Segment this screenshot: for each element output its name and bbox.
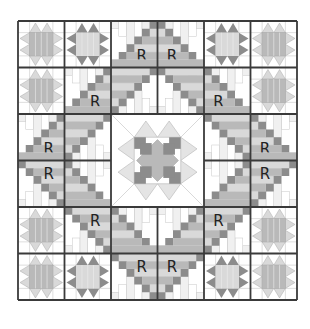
star-block	[65, 21, 112, 68]
center-star-block	[111, 114, 204, 207]
star-block	[204, 21, 251, 68]
r-label: R	[167, 258, 177, 276]
r-label: R	[90, 212, 100, 230]
star-block	[204, 254, 251, 301]
star-block	[18, 21, 65, 68]
star-block	[251, 68, 298, 115]
star-block	[251, 254, 298, 301]
star-block	[18, 68, 65, 115]
star-block	[18, 207, 65, 254]
star-block	[251, 21, 298, 68]
quilt-diagram: RRRRRRRRRRRR	[0, 0, 310, 329]
star-block	[18, 254, 65, 301]
r-label: R	[137, 258, 147, 276]
r-label: R	[260, 165, 270, 183]
star-block	[251, 207, 298, 254]
star-block	[65, 254, 112, 301]
r-label: R	[44, 165, 54, 183]
r-label: R	[213, 212, 223, 230]
